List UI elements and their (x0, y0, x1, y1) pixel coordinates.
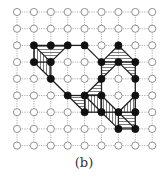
open-node (13, 59, 20, 66)
filled-node (64, 42, 71, 49)
filled-node (98, 109, 105, 116)
filled-node (98, 75, 105, 82)
filled-node (115, 109, 122, 116)
open-node (98, 8, 105, 15)
open-node (64, 25, 71, 32)
filled-node (132, 109, 139, 116)
open-node (98, 25, 105, 32)
open-node (132, 42, 139, 49)
filled-node (64, 92, 71, 99)
lattice-diagram (0, 0, 164, 150)
filled-node (115, 42, 122, 49)
filled-node (81, 92, 88, 99)
open-node (64, 75, 71, 82)
open-node (81, 125, 88, 132)
open-node (98, 142, 105, 149)
open-node (47, 8, 54, 15)
open-node (13, 75, 20, 82)
open-node (98, 125, 105, 132)
open-node (30, 92, 37, 99)
open-node (13, 92, 20, 99)
filled-node (47, 75, 54, 82)
open-node (98, 42, 105, 49)
open-node (47, 25, 54, 32)
open-node (13, 109, 20, 116)
open-node (149, 109, 156, 116)
filled-node (98, 59, 105, 66)
open-node (13, 42, 20, 49)
figure-caption: (b) (0, 155, 164, 170)
open-node (30, 142, 37, 149)
open-node (30, 25, 37, 32)
open-node (81, 8, 88, 15)
open-node (149, 125, 156, 132)
filled-node (132, 125, 139, 132)
open-node (64, 125, 71, 132)
open-node (81, 59, 88, 66)
filled-node (30, 59, 37, 66)
open-node (47, 92, 54, 99)
open-node (30, 75, 37, 82)
open-node (81, 75, 88, 82)
open-node (81, 142, 88, 149)
open-node (13, 125, 20, 132)
open-node (132, 25, 139, 32)
filled-node (132, 92, 139, 99)
filled-node (98, 92, 105, 99)
open-node (132, 8, 139, 15)
open-node (115, 75, 122, 82)
filled-node (81, 42, 88, 49)
open-node (64, 109, 71, 116)
filled-node (47, 59, 54, 66)
open-node (149, 75, 156, 82)
open-node (30, 125, 37, 132)
open-node (149, 59, 156, 66)
filled-node (115, 59, 122, 66)
filled-node (115, 125, 122, 132)
filled-node (47, 42, 54, 49)
open-node (115, 92, 122, 99)
open-node (149, 142, 156, 149)
filled-node (81, 109, 88, 116)
open-node (64, 142, 71, 149)
open-node (13, 8, 20, 15)
open-node (47, 125, 54, 132)
open-node (149, 92, 156, 99)
open-node (30, 8, 37, 15)
open-node (132, 142, 139, 149)
open-node (64, 8, 71, 15)
filled-node (132, 59, 139, 66)
open-node (47, 142, 54, 149)
open-node (13, 142, 20, 149)
filled-node (132, 75, 139, 82)
open-node (149, 8, 156, 15)
open-node (115, 8, 122, 15)
open-node (149, 42, 156, 49)
grid-nodes (13, 8, 155, 149)
open-node (149, 25, 156, 32)
open-node (115, 142, 122, 149)
open-node (81, 25, 88, 32)
open-node (13, 25, 20, 32)
open-node (30, 109, 37, 116)
open-node (47, 109, 54, 116)
open-node (115, 25, 122, 32)
open-node (64, 59, 71, 66)
filled-node (30, 42, 37, 49)
